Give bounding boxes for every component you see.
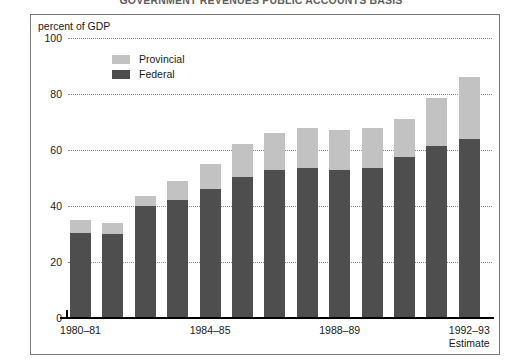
bar-segment-federal [232,177,253,318]
bar-segment-federal [297,168,318,318]
bar-segment-provincial [264,133,285,169]
bar-segment-provincial [394,119,415,157]
bar-segment-federal [264,170,285,318]
bar-1985–86 [232,144,253,318]
bar-1987–88 [297,128,318,318]
bar-segment-provincial [102,223,123,234]
x-axis-baseline [60,317,494,319]
bar-segment-federal [394,157,415,318]
bar-segment-federal [459,139,480,318]
figure-header-strip: GOVERNMENT REVENUES PUBLIC ACCOUNTS BASI… [0,0,522,9]
bar-segment-provincial [297,128,318,169]
bar-segment-federal [362,168,383,318]
bar-segment-federal [329,170,350,318]
x-tick-label-1980–81: 1980–81 [60,324,101,336]
gridline-100 [68,38,492,39]
bar-segment-federal [135,206,156,318]
bar-1982–83 [135,196,156,318]
x-tick-sublabel-estimate: Estimate [449,337,490,349]
bar-segment-federal [167,200,188,318]
bar-segment-federal [102,234,123,318]
legend-swatch-federal-icon [112,70,130,79]
bar-segment-provincial [167,181,188,201]
bar-1986–87 [264,133,285,318]
bar-segment-provincial [329,130,350,169]
bar-segment-provincial [459,77,480,139]
y-tick-label-60: 60 [50,144,62,156]
y-tick-label-80: 80 [50,88,62,100]
bar-1983–84 [167,181,188,318]
x-tick-label-1988–89: 1988–89 [319,324,360,336]
bar-segment-federal [200,189,221,318]
x-tick-label-1984–85: 1984–85 [190,324,231,336]
legend-item-provincial: Provincial [112,52,185,66]
legend-label-federal: Federal [139,68,175,80]
figure-header-title: GOVERNMENT REVENUES PUBLIC ACCOUNTS BASI… [0,0,522,6]
y-tick-label-40: 40 [50,200,62,212]
legend-item-federal: Federal [112,67,185,81]
bar-segment-provincial [70,220,91,233]
bar-segment-provincial [426,98,447,146]
bar-segment-provincial [200,164,221,189]
bar-segment-federal [426,146,447,318]
bar-1981–82 [102,223,123,318]
bar-1989–90 [362,128,383,318]
legend-label-provincial: Provincial [139,53,185,65]
bar-1984–85 [200,164,221,318]
bar-segment-provincial [362,128,383,169]
gridline-80 [68,94,492,95]
legend-swatch-provincial-icon [112,55,130,64]
chart-legend: Provincial Federal [112,52,185,82]
y-axis-title: percent of GDP [38,20,110,32]
bar-1990–91 [394,119,415,318]
bar-segment-provincial [135,196,156,206]
bar-segment-federal [70,233,91,318]
y-tick-label-20: 20 [50,256,62,268]
bar-1988–89 [329,130,350,318]
bar-1991–92 [426,98,447,318]
bar-1992–93 [459,77,480,318]
bar-segment-provincial [232,144,253,176]
bar-1980–81 [70,220,91,318]
x-tick-label-1992–93: 1992–93 [449,324,490,336]
y-tick-label-100: 100 [44,32,62,44]
y-axis-line [66,310,68,319]
